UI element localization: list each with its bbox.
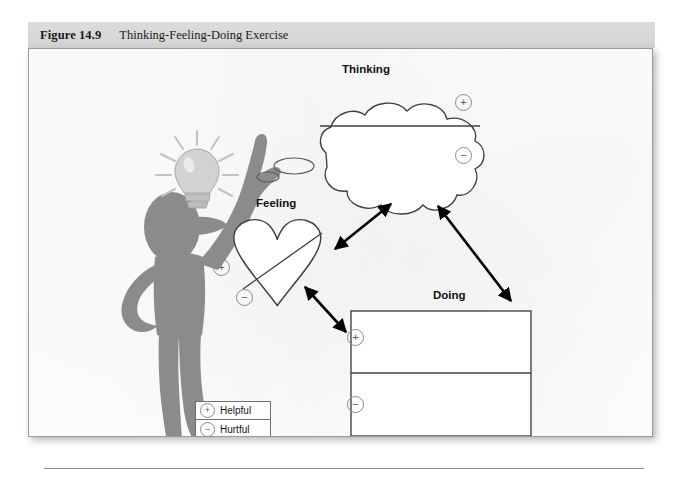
sign-doing-minus: − <box>347 396 364 413</box>
label-feeling: Feeling <box>256 197 296 209</box>
bottom-divider <box>44 468 644 469</box>
label-thinking: Thinking <box>342 63 390 75</box>
figure-panel: Thinking Feeling Doing + − + − + − + Hel… <box>28 48 653 437</box>
legend-row-helpful: + Helpful <box>196 402 270 420</box>
legend-label-hurtful: Hurtful <box>220 424 249 435</box>
figure-page: Figure 14.9 Thinking-Feeling-Doing Exerc… <box>0 0 680 483</box>
sign-doing-plus: + <box>347 329 364 346</box>
doing-rectangle <box>351 311 531 436</box>
legend: + Helpful − Hurtful <box>195 401 271 437</box>
plus-icon: + <box>200 403 215 418</box>
diagram-canvas <box>29 49 653 437</box>
label-doing: Doing <box>433 289 466 301</box>
sign-feeling-plus: + <box>213 259 230 276</box>
arrow-feeling-doing <box>305 287 346 332</box>
sign-feeling-minus: − <box>236 289 253 306</box>
figure-title: Thinking-Feeling-Doing Exercise <box>119 28 288 43</box>
legend-row-hurtful: − Hurtful <box>196 420 270 437</box>
sign-thinking-minus: − <box>455 147 472 164</box>
figure-number-label: Figure 14.9 <box>40 28 101 43</box>
figure-caption-band: Figure 14.9 Thinking-Feeling-Doing Exerc… <box>28 22 655 48</box>
sign-thinking-plus: + <box>455 94 472 111</box>
minus-icon: − <box>200 422 215 437</box>
arrow-thinking-doing <box>438 206 511 301</box>
legend-label-helpful: Helpful <box>220 405 251 416</box>
arrow-feeling-thinking <box>335 204 391 249</box>
